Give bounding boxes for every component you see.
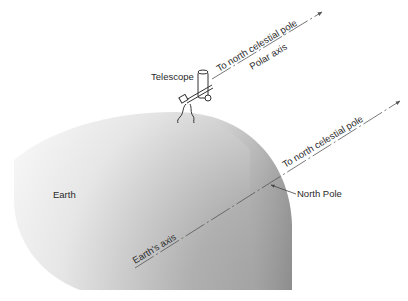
- telescope-label: Telescope: [151, 71, 194, 82]
- earth-globe: [14, 112, 292, 290]
- polar-axis-line: [212, 12, 322, 79]
- north-pole-label: North Pole: [297, 188, 342, 199]
- earth-label: Earth: [53, 189, 76, 200]
- earth-axis-pole-label: To north celestial pole: [280, 113, 364, 170]
- celestial-pole-diagram: Telescope To north celestial pole Polar …: [0, 0, 408, 301]
